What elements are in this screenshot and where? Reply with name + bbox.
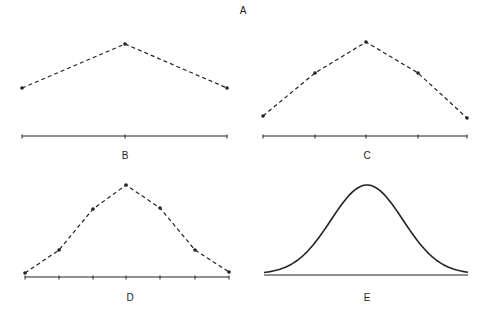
polygon-B	[22, 44, 227, 88]
polygon-C	[263, 42, 467, 118]
polygon-D	[25, 185, 229, 273]
data-point	[227, 270, 231, 274]
panel-label-D: D	[126, 293, 133, 303]
data-point	[364, 40, 368, 44]
figure-canvas	[0, 0, 492, 314]
panel-label-E: E	[364, 293, 371, 303]
data-point	[193, 248, 197, 252]
data-point	[123, 42, 127, 46]
data-point	[261, 114, 265, 118]
data-point	[313, 71, 317, 75]
data-point	[416, 71, 420, 75]
normal-curve-E	[264, 185, 468, 272]
panel-label-C: C	[363, 151, 370, 161]
data-point	[158, 206, 162, 210]
figure-title-A: A	[240, 6, 247, 16]
data-point	[91, 207, 95, 211]
data-point	[20, 86, 24, 90]
data-point	[57, 248, 61, 252]
panel-label-B: B	[122, 151, 129, 161]
data-point	[124, 183, 128, 187]
data-point	[465, 116, 469, 120]
data-point	[23, 271, 27, 275]
data-point	[225, 86, 229, 90]
